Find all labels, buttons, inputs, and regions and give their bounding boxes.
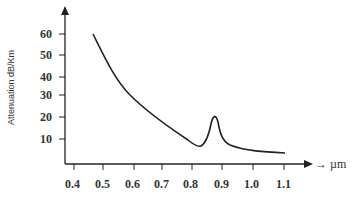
x-tick-label: 0.4 bbox=[65, 177, 80, 191]
attenuation-curve bbox=[93, 34, 285, 153]
x-tick-label: 0.9 bbox=[214, 177, 229, 191]
y-ticks: 60 50 40 30 20 10 bbox=[40, 27, 65, 146]
x-tick-label: 1.1 bbox=[276, 177, 291, 191]
y-tick-label: 10 bbox=[40, 132, 52, 146]
x-ticks: 0.4 0.5 0.6 0.7 0.8 0.9 1.0 1.1 bbox=[65, 164, 291, 191]
y-tick-label: 60 bbox=[40, 27, 52, 41]
x-tick-label: 0.8 bbox=[183, 177, 198, 191]
y-tick-label: 40 bbox=[40, 70, 52, 84]
x-axis-arrow-icon bbox=[304, 160, 313, 168]
y-axis-arrow-icon bbox=[61, 6, 69, 15]
y-axis-label: Attenuation dB/Km bbox=[6, 50, 16, 125]
y-tick-label: 30 bbox=[40, 88, 52, 102]
attenuation-chart: → µm Attenuation dB/Km 60 50 40 30 20 10… bbox=[0, 0, 359, 210]
x-axis-unit-label: → µm bbox=[315, 157, 347, 171]
x-tick-label: 0.7 bbox=[154, 177, 169, 191]
y-tick-label: 20 bbox=[40, 110, 52, 124]
y-tick-label: 50 bbox=[40, 48, 52, 62]
x-tick-label: 0.5 bbox=[95, 177, 110, 191]
x-tick-label: 1.0 bbox=[244, 177, 259, 191]
x-tick-label: 0.6 bbox=[125, 177, 140, 191]
